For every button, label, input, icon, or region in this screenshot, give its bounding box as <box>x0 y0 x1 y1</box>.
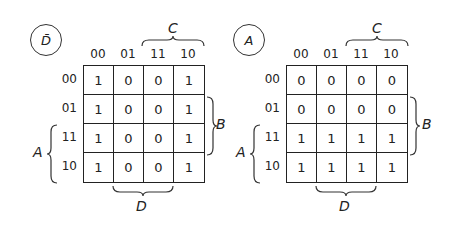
function-label: D̄ <box>41 33 51 48</box>
left-row-brace-icon <box>249 124 261 184</box>
kmap-cell: 1 <box>347 124 377 153</box>
kmap-cell: 0 <box>144 95 174 124</box>
kmap-cell: 1 <box>174 95 204 124</box>
kmap-cell: 0 <box>287 95 317 124</box>
kmap-cell: 1 <box>84 66 114 95</box>
kmap-cell: 1 <box>317 153 347 182</box>
kmap-d-bar: D̄ C 00 01 11 10 00 01 11 10 A B 1 0 0 1… <box>0 0 228 226</box>
kmap-cell: 1 <box>174 153 204 182</box>
left-row-variable-label: A <box>33 144 43 160</box>
right-row-variable-label: B <box>422 116 432 132</box>
kmap-cell: 1 <box>377 124 407 153</box>
column-header: 11 <box>143 47 173 61</box>
kmap-cell: 1 <box>84 124 114 153</box>
kmap-cell: 1 <box>287 153 317 182</box>
kmap-cell: 0 <box>347 66 377 95</box>
column-variable-label: C <box>168 20 178 36</box>
column-header: 00 <box>286 47 316 61</box>
function-label-circle: D̄ <box>30 24 62 56</box>
column-header: 10 <box>376 47 406 61</box>
kmap-cell: 0 <box>144 66 174 95</box>
row-header: 11 <box>258 130 280 144</box>
row-header: 00 <box>55 72 77 86</box>
kmap-cell: 1 <box>174 66 204 95</box>
kmap-cell: 0 <box>287 66 317 95</box>
column-header: 10 <box>173 47 203 61</box>
column-header: 01 <box>316 47 346 61</box>
kmap-cell: 0 <box>377 66 407 95</box>
kmap-grid: 0 0 0 0 0 0 0 0 1 1 1 1 1 1 1 1 <box>286 65 408 183</box>
row-header: 01 <box>55 101 77 115</box>
column-header: 11 <box>346 47 376 61</box>
column-header: 00 <box>83 47 113 61</box>
kmap-cell: 0 <box>347 95 377 124</box>
row-header: 10 <box>55 159 77 173</box>
row-header: 01 <box>258 101 280 115</box>
kmap-cell: 0 <box>114 95 144 124</box>
kmap-a: A C 00 01 11 10 00 01 11 10 A B 0 0 0 0 … <box>228 0 456 226</box>
bottom-brace-icon <box>112 185 174 197</box>
left-row-variable-label: A <box>236 144 246 160</box>
kmap-cell: 0 <box>144 153 174 182</box>
kmap-cell: 1 <box>347 153 377 182</box>
kmap-cell: 1 <box>84 95 114 124</box>
column-brace-icon <box>345 35 409 47</box>
right-row-brace-icon <box>409 96 421 156</box>
kmap-cell: 1 <box>287 124 317 153</box>
function-label: A <box>245 33 254 48</box>
function-label-circle: A <box>233 24 265 56</box>
bottom-variable-label: D <box>339 198 350 214</box>
kmap-cell: 1 <box>317 124 347 153</box>
left-row-brace-icon <box>46 124 58 184</box>
kmap-cell: 1 <box>174 124 204 153</box>
kmap-cell: 1 <box>377 153 407 182</box>
kmap-cell: 0 <box>317 66 347 95</box>
row-header: 10 <box>258 159 280 173</box>
row-header: 11 <box>55 130 77 144</box>
bottom-brace-icon <box>315 185 377 197</box>
column-variable-label: C <box>372 20 382 36</box>
column-brace-icon <box>141 35 205 47</box>
kmap-grid: 1 0 0 1 1 0 0 1 1 0 0 1 1 0 0 1 <box>83 65 205 183</box>
kmap-cell: 0 <box>377 95 407 124</box>
kmap-cell: 0 <box>114 124 144 153</box>
right-row-variable-label: B <box>216 116 226 132</box>
bottom-variable-label: D <box>136 198 147 214</box>
kmap-cell: 0 <box>114 66 144 95</box>
kmap-cell: 1 <box>84 153 114 182</box>
kmap-cell: 0 <box>317 95 347 124</box>
kmap-cell: 0 <box>144 124 174 153</box>
kmap-cell: 0 <box>114 153 144 182</box>
row-header: 00 <box>258 72 280 86</box>
column-header: 01 <box>113 47 143 61</box>
